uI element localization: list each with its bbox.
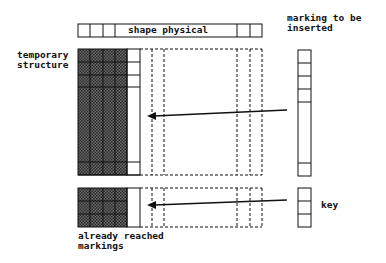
insert-arrow-icon [147,110,287,120]
temporary-structure-label-line2: structure [17,60,68,70]
marking-label-line2: inserted [287,23,333,33]
already-reached-block [78,188,262,227]
diagram-canvas [0,0,386,263]
key-arrow-icon [147,200,287,209]
shape-physical-label: shape physical [128,25,208,35]
key-label: key [321,200,338,210]
key-column [298,188,311,227]
marking-to-insert-column [298,50,311,176]
already-reached-label-line2: markings [78,241,124,251]
